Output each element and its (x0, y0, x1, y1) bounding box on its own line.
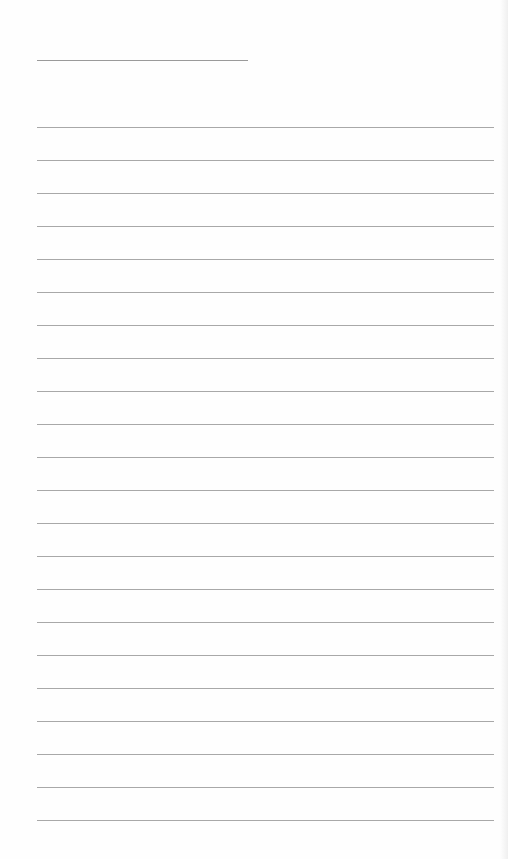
ruled-line (37, 622, 494, 623)
ruled-line (37, 556, 494, 557)
ruled-line (37, 523, 494, 524)
title-line (37, 60, 248, 61)
ruled-line (37, 655, 494, 656)
ruled-line (37, 259, 494, 260)
ruled-line (37, 820, 494, 821)
ruled-line (37, 226, 494, 227)
ruled-line (37, 589, 494, 590)
ruled-line (37, 325, 494, 326)
ruled-line (37, 391, 494, 392)
ruled-line (37, 193, 494, 194)
ruled-line (37, 358, 494, 359)
ruled-line (37, 457, 494, 458)
page-edge-shadow (500, 0, 508, 859)
ruled-line (37, 127, 494, 128)
ruled-line (37, 688, 494, 689)
ruled-line (37, 160, 494, 161)
ruled-line (37, 787, 494, 788)
lined-paper-page (0, 0, 508, 859)
ruled-line (37, 424, 494, 425)
ruled-line (37, 754, 494, 755)
ruled-line (37, 721, 494, 722)
ruled-line (37, 490, 494, 491)
ruled-line (37, 292, 494, 293)
